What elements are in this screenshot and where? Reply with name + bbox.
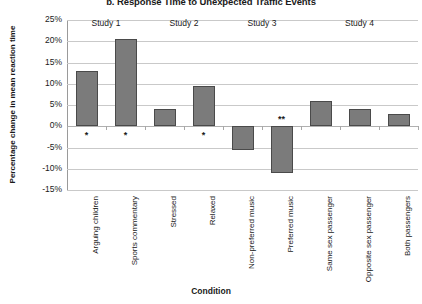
x-axis-tick-mark [145,126,146,130]
y-axis-tick-label: 5% [22,99,62,109]
x-axis-tick-mark [262,126,263,130]
x-axis-category-label: Non-preferred music [247,196,256,269]
x-axis-tick-mark [223,126,224,130]
x-axis-category-label: Same sex passenger [325,196,334,271]
bar [115,39,137,126]
x-axis-category-label: Preferred music [286,196,295,252]
chart-title: b. Response Time to Unexpected Traffic E… [0,0,422,7]
y-axis-title: Percentage change in mean reaction time [8,20,17,190]
significance-marker: ** [262,115,302,123]
bar [310,101,332,127]
x-axis-category-label: Stressed [169,196,178,228]
x-axis-tick-mark [106,126,107,130]
x-axis-category-label-wrap: Both passengers [403,196,412,256]
y-axis-tick-label: 25% [22,14,62,24]
y-axis-tick-label: 20% [22,35,62,45]
study-group-label: Study 3 [227,18,297,28]
x-axis-tick-mark [184,126,185,130]
x-axis-category-label: Relaxed [208,196,217,225]
x-axis-category-label-wrap: Same sex passenger [325,196,334,271]
study-group-label: Study 2 [149,18,219,28]
x-axis-category-label-wrap: Relaxed [208,196,217,225]
x-axis-tick-mark [301,126,302,130]
y-axis-tick-label: 0% [22,120,62,130]
chart-figure: b. Response Time to Unexpected Traffic E… [0,0,422,304]
study-group-label: Study 1 [71,18,141,28]
x-axis-category-label-wrap: Non-preferred music [247,196,256,269]
y-axis-tick-label: 10% [22,78,62,88]
x-axis-tick-mark [67,126,68,130]
y-axis-tick-label: -10% [22,163,62,173]
bar [271,126,293,173]
x-axis-category-label: Opposite sex passenger [364,196,373,282]
gridline [67,190,418,191]
significance-marker: * [106,131,146,139]
bar [388,114,410,127]
x-axis-tick-mark [418,126,419,130]
study-group-label: Study 4 [325,18,395,28]
x-axis-category-label: Both passengers [403,196,412,256]
y-axis-tick-label: 15% [22,57,62,67]
significance-marker: * [184,131,224,139]
x-axis-tick-mark [340,126,341,130]
x-axis-tick-mark [379,126,380,130]
bar [349,109,371,126]
x-axis-category-label-wrap: Preferred music [286,196,295,252]
y-axis-tick-label: -15% [22,184,62,194]
x-axis-category-label: Sports commentary [130,196,139,265]
x-axis-category-label-wrap: Stressed [169,196,178,228]
x-axis-category-label: Arguing children [91,196,100,254]
x-axis-category-label-wrap: Sports commentary [130,196,139,265]
gridline [67,169,418,170]
y-axis-tick-label: -5% [22,142,62,152]
x-axis-title: Condition [0,286,422,296]
bar [76,71,98,126]
x-axis-category-label-wrap: Arguing children [91,196,100,254]
bar [154,109,176,126]
bar [193,86,215,126]
significance-marker: * [67,131,107,139]
bar [232,126,254,149]
x-axis-category-label-wrap: Opposite sex passenger [364,196,373,282]
